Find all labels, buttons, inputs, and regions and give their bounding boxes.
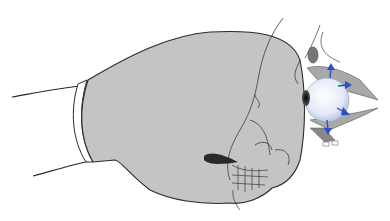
glove <box>82 31 305 203</box>
glove-eye-illustration <box>0 0 390 221</box>
illustration-stage <box>0 0 390 221</box>
pupil <box>302 90 310 106</box>
eyeball <box>305 78 349 122</box>
frontal-sinus <box>308 47 318 63</box>
